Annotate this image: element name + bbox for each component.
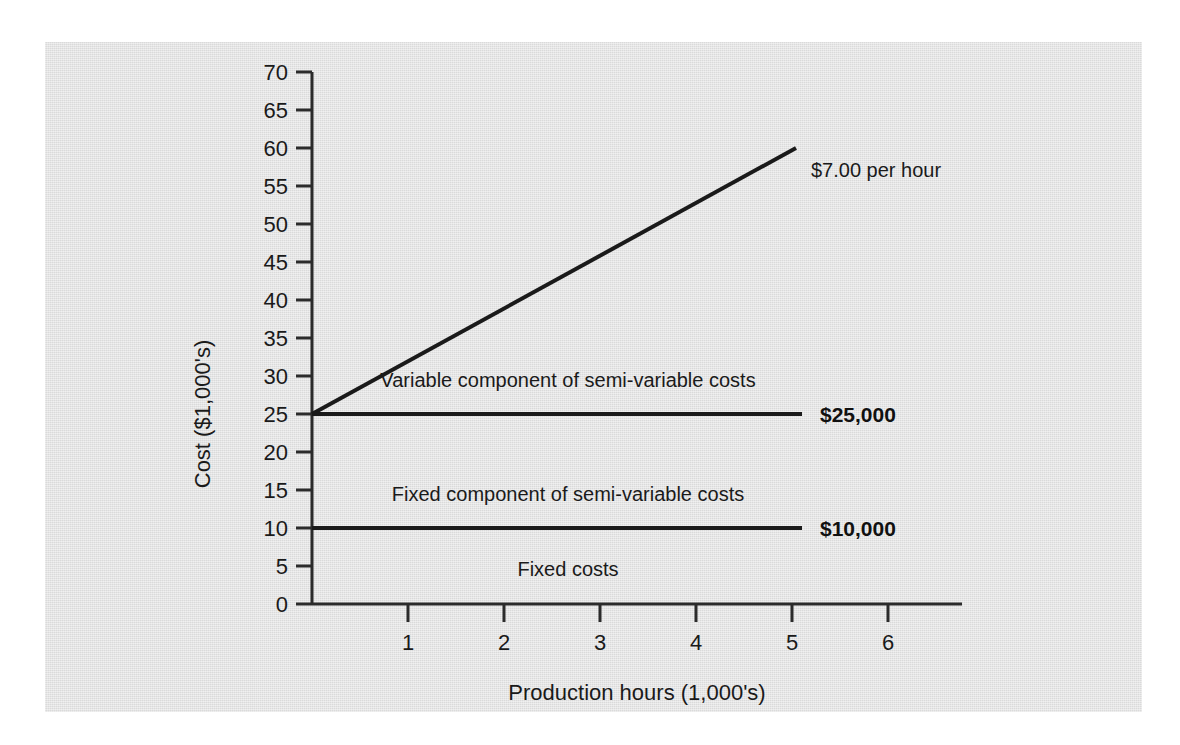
y-tick-label-35: 35: [264, 326, 288, 351]
y-tick-label-25: 25: [264, 402, 288, 427]
x-tick-label-6: 6: [882, 630, 894, 655]
y-tick-label-55: 55: [264, 174, 288, 199]
x-axis-title: Production hours (1,000's): [508, 680, 765, 705]
semi-variable-fixed-value-label: $25,000: [820, 403, 896, 426]
y-tick-label-15: 15: [264, 478, 288, 503]
y-tick-label-70: 70: [264, 60, 288, 85]
x-tick-label-4: 4: [690, 630, 702, 655]
x-tick-label-1: 1: [402, 630, 414, 655]
y-axis-title: Cost ($1,000's): [190, 340, 215, 489]
region-label-variable-component: Variable component of semi-variable cost…: [380, 369, 755, 391]
y-tick-label-45: 45: [264, 250, 288, 275]
x-tick-label-5: 5: [786, 630, 798, 655]
y-tick-label-50: 50: [264, 212, 288, 237]
y-tick-label-60: 60: [264, 136, 288, 161]
y-tick-label-40: 40: [264, 288, 288, 313]
slope-rate-label: $7.00 per hour: [811, 159, 941, 181]
y-tick-label-20: 20: [264, 440, 288, 465]
fixed-costs-value-label: $10,000: [820, 517, 896, 540]
x-tick-label-2: 2: [498, 630, 510, 655]
y-tick-label-65: 65: [264, 98, 288, 123]
y-tick-label-10: 10: [264, 516, 288, 541]
region-label-fixed-component: Fixed component of semi-variable costs: [392, 483, 744, 505]
y-tick-label-5: 5: [276, 554, 288, 579]
cost-behavior-chart: 0 5 10 15 20 25 30 35 40 45 50 55 60 65 …: [45, 42, 1142, 712]
region-label-fixed-costs: Fixed costs: [517, 558, 618, 580]
figure-panel: 0 5 10 15 20 25 30 35 40 45 50 55 60 65 …: [45, 42, 1142, 712]
y-tick-label-0: 0: [276, 592, 288, 617]
y-tick-label-30: 30: [264, 364, 288, 389]
x-tick-label-3: 3: [594, 630, 606, 655]
